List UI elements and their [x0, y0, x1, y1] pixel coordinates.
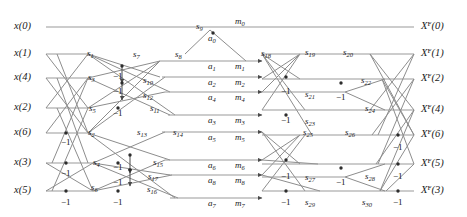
flow-graph-canvas: [0, 0, 467, 217]
node-label-m0: m0: [235, 17, 245, 27]
node-label-a6: a6: [208, 161, 216, 171]
weight-label-w-l2: −1: [113, 86, 123, 96]
node-label-m4: m4: [235, 93, 245, 103]
node-label-a1: a1: [208, 62, 216, 72]
input-label-x5: x(5): [14, 185, 31, 196]
weight-label-w-r9: −1: [393, 197, 403, 207]
weight-label-w-l9: −1: [113, 197, 123, 207]
weight-label-w-r4: −1: [281, 197, 291, 207]
node-label-m8: m8: [235, 176, 245, 186]
weight-label-w-l1: −1: [113, 71, 123, 81]
signal-label-s3: s3: [88, 73, 95, 83]
output-label-XF6: XF(6): [421, 129, 444, 140]
signal-label-s10: s10: [143, 76, 153, 86]
input-label-x4: x(4): [14, 72, 31, 83]
signal-label-s17: s17: [148, 172, 158, 182]
weight-label-w-r5: −1: [336, 92, 346, 102]
signal-label-s1: s1: [87, 49, 94, 59]
signal-label-s2: s2: [88, 128, 95, 138]
weight-label-w-l7: −1: [113, 177, 123, 187]
stage-b-crossings: [88, 54, 178, 198]
output-label-XF2: XF(2): [421, 73, 444, 84]
signal-label-s5: s5: [89, 104, 96, 114]
stage-d-crossings: [345, 54, 414, 191]
weight-label-w-l8: −1: [61, 197, 71, 207]
signal-label-s25: s25: [303, 128, 313, 138]
output-label-XF3: XF(3): [421, 185, 444, 196]
weight-label-w-r7: −1: [393, 142, 403, 152]
node-label-m3: m3: [235, 116, 245, 126]
output-label-XF1: XF(1): [421, 48, 444, 59]
signal-label-s24: s24: [365, 104, 375, 114]
weight-label-w-l3: −1: [61, 137, 71, 147]
signal-label-s8: s8: [175, 50, 182, 60]
fft-flow-graph-figure: x(0) x(1) x(4) x(2) x(6) x(3) x(5) XF(0)…: [0, 0, 467, 217]
signal-label-s7: s7: [133, 50, 140, 60]
node-label-a5: a5: [208, 133, 216, 143]
signal-label-s29: s29: [305, 198, 315, 208]
node-label-a8: a8: [208, 176, 216, 186]
signal-label-s18: s18: [261, 49, 271, 59]
weight-label-w-r3: −1: [281, 171, 291, 181]
signal-label-s26: s26: [345, 128, 355, 138]
signal-label-s16: s16: [147, 185, 157, 195]
node-label-a4: a4: [208, 93, 216, 103]
node-label-m2: m2: [235, 78, 245, 88]
node-label-m5: m5: [235, 133, 245, 143]
signal-label-s20: s20: [343, 48, 353, 58]
weight-label-w-r6: −1: [336, 177, 346, 187]
signal-label-s11: s11: [150, 104, 160, 114]
signal-label-s28: s28: [365, 172, 375, 182]
signal-label-s30: s30: [362, 198, 372, 208]
node-label-m7: m7: [235, 199, 245, 209]
node-label-m6: m6: [235, 161, 245, 171]
signal-label-s21: s21: [305, 90, 315, 100]
signal-label-s4: s4: [93, 158, 100, 168]
node-label-a2: a2: [208, 78, 216, 88]
signal-label-s27: s27: [305, 173, 315, 183]
input-label-x1: x(1): [14, 48, 31, 59]
node-label-a0: a0: [208, 34, 216, 44]
input-label-x0: x(0): [14, 21, 31, 32]
weight-label-w-r8: −1: [393, 171, 403, 181]
input-label-x6: x(6): [14, 127, 31, 138]
weight-label-w-r2: −1: [281, 115, 291, 125]
weight-label-w-l4: −1: [113, 108, 123, 118]
weight-label-w-l6: −1: [113, 162, 123, 172]
signal-label-s9: s9: [196, 22, 203, 32]
input-label-x2: x(2): [14, 102, 31, 113]
input-label-x3: x(3): [14, 157, 31, 168]
signal-label-s6: s6: [91, 183, 98, 193]
output-label-XF0: XF(0): [421, 21, 444, 32]
signal-label-s19: s19: [305, 48, 315, 58]
signal-label-s12: s12: [143, 91, 153, 101]
output-label-XF5: XF(5): [421, 158, 444, 169]
signal-label-s23: s23: [305, 117, 315, 127]
node-label-a3: a3: [208, 116, 216, 126]
signal-label-s15: s15: [153, 158, 163, 168]
output-label-XF4: XF(4): [421, 104, 444, 115]
signal-label-s14: s14: [173, 128, 183, 138]
signal-label-s22: s22: [361, 76, 371, 86]
node-label-a7: a7: [208, 199, 216, 209]
node-label-m1: m1: [235, 62, 245, 72]
weight-label-w-r1: −1: [281, 86, 291, 96]
signal-label-s13: s13: [137, 128, 147, 138]
weight-label-w-l5: −1: [61, 168, 71, 178]
